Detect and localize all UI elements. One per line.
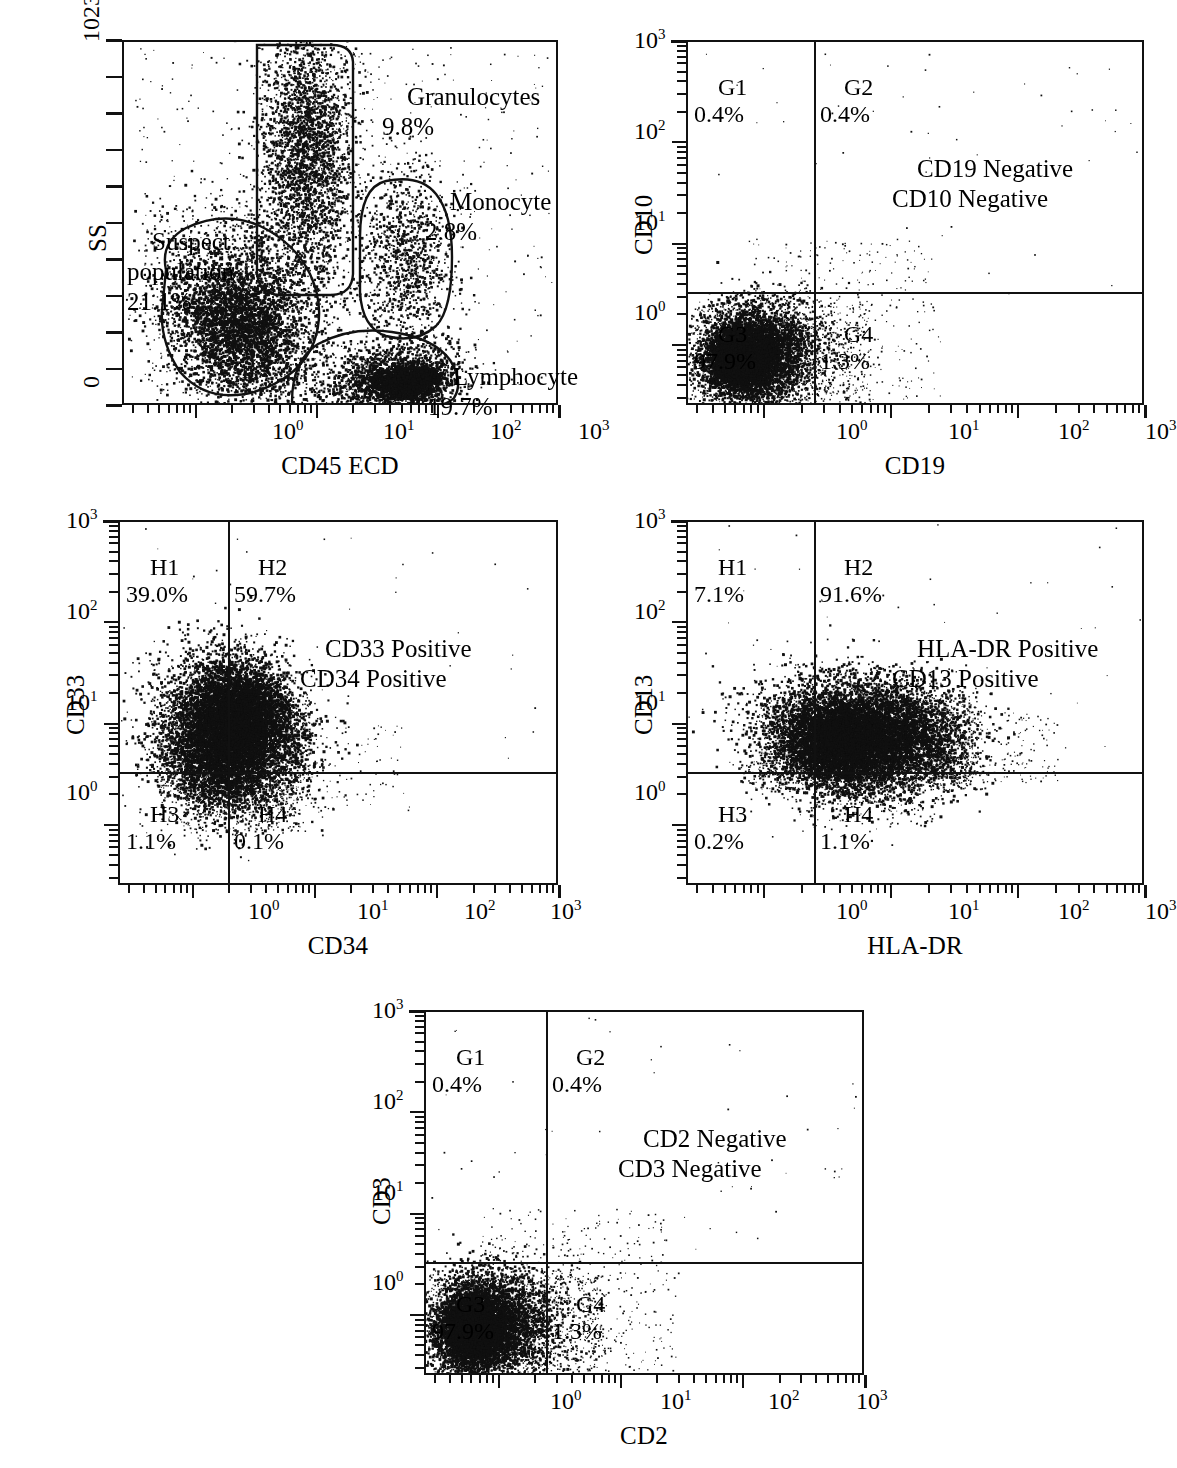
- x-tick: [839, 885, 841, 893]
- x-tick: [372, 885, 374, 893]
- panel-cd10-cd19: 103 102 101 100 CD10 G1 0.4% G2 0.4% G3 …: [600, 0, 1173, 490]
- x-tick: [470, 1375, 472, 1383]
- y-tick: [415, 1283, 424, 1285]
- y-tick: [415, 1182, 424, 1184]
- x-tick: [950, 405, 952, 413]
- y-tick: [409, 1010, 424, 1013]
- y-tick: [109, 591, 118, 593]
- x-tick: [852, 1375, 854, 1383]
- y-tick: [106, 76, 122, 79]
- y-tick: [677, 354, 686, 356]
- y-tick: [106, 295, 122, 298]
- p1-ytick-0: 0: [78, 376, 105, 388]
- y-tick: [677, 854, 686, 856]
- p5-quadrant-label-g3: G3 97.9%: [432, 1264, 494, 1372]
- y-tick: [677, 212, 686, 214]
- y-tick: [677, 846, 686, 848]
- y-tick: [677, 93, 686, 95]
- y-tick: [415, 1222, 424, 1224]
- y-tick: [109, 776, 118, 778]
- y-tick: [677, 745, 686, 747]
- y-tick: [109, 763, 118, 765]
- p4-y-axis-label: CD13: [630, 674, 658, 735]
- x-tick: [289, 405, 291, 413]
- y-tick: [677, 45, 686, 47]
- x-tick: [479, 1375, 481, 1383]
- x-tick: [410, 405, 412, 413]
- y-tick: [106, 258, 122, 261]
- y-tick: [415, 1266, 424, 1268]
- y-tick: [677, 692, 686, 694]
- y-tick: [415, 1134, 424, 1136]
- y-tick: [109, 560, 118, 562]
- y-tick: [677, 652, 686, 654]
- x-tick: [815, 1375, 817, 1383]
- y-tick: [106, 368, 122, 371]
- y-tick: [106, 39, 122, 42]
- y-tick: [106, 222, 122, 225]
- y-tick: [109, 753, 118, 755]
- y-tick: [677, 560, 686, 562]
- y-tick: [677, 283, 686, 285]
- y-tick: [106, 404, 122, 407]
- x-tick: [250, 885, 252, 893]
- x-tick: [979, 405, 981, 413]
- y-tick: [415, 1228, 424, 1230]
- y-tick: [104, 824, 118, 826]
- x-tick: [521, 885, 523, 893]
- y-tick: [415, 1253, 424, 1255]
- y-tick: [415, 1319, 424, 1321]
- x-tick: [494, 885, 496, 893]
- y-tick: [109, 652, 118, 654]
- p3-annotation: CD33 Positive CD34 Positive: [300, 603, 472, 725]
- y-tick: [677, 265, 686, 267]
- x-tick: [779, 1375, 781, 1383]
- x-tick: [997, 885, 999, 893]
- x-tick: [297, 405, 299, 413]
- x-tick: [763, 885, 765, 898]
- p5-x-axis-label: CD2: [424, 1422, 864, 1450]
- y-tick: [109, 846, 118, 848]
- p2-xtick-3: 103: [1145, 418, 1177, 445]
- y-tick: [677, 71, 686, 73]
- x-tick: [1017, 885, 1019, 898]
- p5-ytick-2: 102: [372, 1088, 404, 1115]
- p5-annotation: CD2 Negative CD3 Negative: [618, 1093, 787, 1215]
- x-tick: [801, 405, 803, 413]
- y-tick: [415, 1217, 424, 1219]
- p5-ytick-3: 103: [372, 997, 404, 1024]
- p5-xtick-3: 103: [856, 1388, 888, 1415]
- y-tick: [677, 637, 686, 639]
- p5-xtick-2: 102: [768, 1388, 800, 1415]
- y-tick: [415, 1235, 424, 1237]
- p3-y-axis-label: CD33: [62, 674, 90, 735]
- y-tick: [672, 141, 686, 143]
- x-tick: [864, 1375, 867, 1388]
- x-tick: [851, 405, 853, 413]
- y-tick: [677, 146, 686, 148]
- x-tick: [742, 1375, 744, 1388]
- x-tick: [425, 405, 427, 413]
- x-tick: [1132, 405, 1134, 413]
- x-tick: [678, 1375, 680, 1383]
- y-tick: [677, 111, 686, 113]
- x-tick: [1138, 885, 1140, 893]
- y-tick: [677, 732, 686, 734]
- p2-ytick-0: 100: [634, 299, 666, 326]
- x-tick: [558, 885, 561, 898]
- y-tick: [677, 164, 686, 166]
- x-tick: [461, 1375, 463, 1383]
- x-tick: [723, 1375, 725, 1383]
- x-tick: [877, 885, 879, 893]
- p1-xtick-0: 100: [272, 418, 304, 445]
- x-tick: [801, 885, 803, 893]
- x-tick: [434, 1375, 436, 1383]
- x-tick: [734, 405, 736, 413]
- y-tick: [109, 692, 118, 694]
- y-tick: [677, 62, 686, 64]
- p2-quadrant-label-g3: G3 97.9%: [694, 294, 756, 402]
- panel-cd3-cd2: 103 102 101 100 CD3 G1 0.4% G2 0.4% G3 9…: [300, 970, 900, 1468]
- y-tick: [677, 829, 686, 831]
- y-tick: [672, 824, 686, 826]
- y-tick: [677, 50, 686, 52]
